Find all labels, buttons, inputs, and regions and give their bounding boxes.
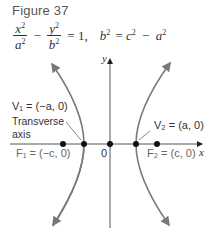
- v2-label: V₂ = (a, 0): [154, 119, 204, 131]
- f1-label: F₁ = (−c, 0): [16, 147, 70, 159]
- transverse-axis-label-1: Transverse: [12, 115, 64, 127]
- f2-label: F₂ = (c, 0): [147, 147, 196, 159]
- v2-pointer: [139, 131, 150, 140]
- v1-pointer: [66, 122, 81, 140]
- origin-label: 0: [101, 147, 107, 159]
- vertex-v1-point: [81, 141, 87, 147]
- x-axis-label: x: [199, 146, 204, 158]
- vertex-v2-point: [133, 141, 139, 147]
- v1-label: V₁ = (−a, 0): [12, 100, 68, 112]
- right-branch: [136, 63, 170, 144]
- y-axis-label: y: [102, 52, 107, 64]
- transverse-axis-label-2: axis: [12, 128, 31, 140]
- origin-point: [107, 141, 113, 147]
- left-branch: [52, 64, 84, 226]
